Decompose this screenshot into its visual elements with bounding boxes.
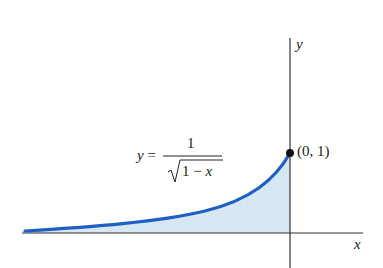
equation-denominator: 1 − x [182,163,212,180]
plot-area [0,0,383,268]
y-axis-label: y [296,36,303,53]
equation-numerator: 1 [187,135,195,152]
x-axis-label: x [354,236,361,253]
point-marker [286,149,294,157]
equation-lhs: y = [137,147,156,164]
point-label: (0, 1) [297,143,330,160]
chart: y x (0, 1) y = 1 1 − x [0,0,383,268]
